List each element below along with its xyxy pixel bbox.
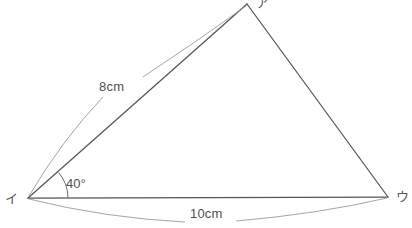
side-i-u <box>28 197 388 198</box>
side-a-u <box>247 4 388 197</box>
measure-arc-10cm-right <box>236 198 387 221</box>
measure-arc-10cm-left <box>29 199 185 222</box>
measure-label-8cm: 8cm <box>99 80 124 93</box>
vertex-label-i: イ <box>5 192 18 205</box>
angle-label-40: 40° <box>66 177 86 190</box>
measure-arc-8cm-upper <box>143 6 246 77</box>
measure-label-10cm: 10cm <box>190 207 223 220</box>
side-i-a <box>28 4 247 198</box>
triangle-figure <box>0 0 412 228</box>
vertex-label-a: ア <box>256 0 269 9</box>
diagram-canvas: ア イ ウ 8cm 10cm 40° <box>0 0 412 228</box>
vertex-label-u: ウ <box>396 190 409 203</box>
